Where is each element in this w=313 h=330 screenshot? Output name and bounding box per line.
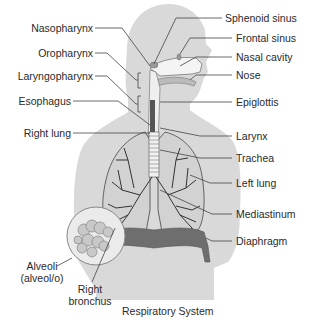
label-frontal-sinus: Frontal sinus (236, 32, 296, 44)
label-esophagus: Esophagus (18, 95, 71, 107)
label-right-bronchus: Right bronchus (64, 283, 116, 307)
label-right-bronchus-line2: bronchus (64, 295, 116, 307)
label-epiglottis: Epiglottis (236, 96, 279, 108)
label-alveoli-line1: Alveoli (18, 260, 66, 272)
respiratory-system-diagram: Nasopharynx Oropharynx Laryngopharynx Es… (0, 0, 313, 330)
label-alveoli-line2: (alveol/o) (18, 272, 66, 284)
trachea (149, 132, 159, 177)
label-nose: Nose (236, 69, 261, 81)
label-nasopharynx: Nasopharynx (31, 22, 93, 34)
label-mediastinum: Mediastinum (236, 208, 296, 220)
label-oropharynx: Oropharynx (38, 47, 93, 59)
alveoli-inset (67, 207, 125, 265)
label-larynx: Larynx (236, 130, 268, 142)
label-right-bronchus-line1: Right (64, 283, 116, 295)
label-laryngopharynx: Laryngopharynx (18, 70, 93, 82)
label-trachea: Trachea (236, 152, 274, 164)
label-sphenoid-sinus: Sphenoid sinus (225, 12, 297, 24)
label-nasal-cavity: Nasal cavity (236, 51, 293, 63)
label-left-lung: Left lung (236, 177, 276, 189)
label-diaphragm: Diaphragm (236, 235, 287, 247)
label-right-lung: Right lung (24, 127, 71, 139)
diagram-title: Respiratory System (122, 305, 214, 317)
label-alveoli: Alveoli (alveol/o) (18, 260, 66, 284)
